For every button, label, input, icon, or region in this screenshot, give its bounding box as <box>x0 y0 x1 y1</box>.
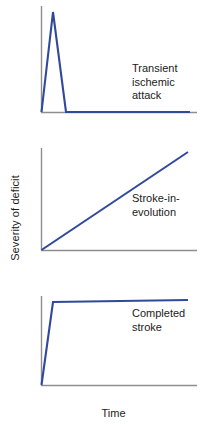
chart-label-completed-stroke: Completed stroke <box>132 307 185 334</box>
chart-label-stroke-in-evolution: Stroke-in- evolution <box>132 192 180 219</box>
tia-plot <box>30 0 213 128</box>
completed-plot <box>30 278 213 398</box>
chart-completed-stroke <box>30 278 213 398</box>
sie-plot <box>30 140 213 262</box>
x-axis-label: Time <box>30 407 197 419</box>
chart-transient-ischemic-attack <box>30 0 213 128</box>
chart-label-transient-ischemic-attack: Transient ischemic attack <box>132 62 177 103</box>
chart-stroke-in-evolution <box>30 140 213 262</box>
y-axis-label-text: Severity of deficit <box>9 175 21 261</box>
stroke-severity-diagram: Severity of deficit Transient ischemic a… <box>0 0 213 435</box>
y-axis-label: Severity of deficit <box>0 0 30 435</box>
